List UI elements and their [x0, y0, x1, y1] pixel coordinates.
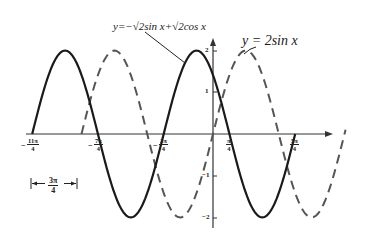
xtick-5pi-4: 5π4	[290, 137, 299, 152]
function-graph	[0, 0, 365, 238]
xtick-neg-11pi-4: 11π4	[27, 137, 39, 152]
xtick-pi-4: π4	[226, 137, 232, 152]
ytick-2: 2	[205, 46, 209, 54]
period-annotation: 3π4	[48, 176, 58, 195]
label-dashed-equation: y = 2sin x	[242, 33, 298, 49]
ytick-neg1: −1	[202, 171, 210, 179]
x-axis-arrow-icon	[325, 131, 333, 137]
ytick-1: 1	[205, 87, 209, 95]
minus-sign: −	[153, 141, 158, 150]
y-axis-arrow-icon	[210, 38, 216, 46]
xtick-neg-3pi-4: 3π4	[159, 137, 168, 152]
label-solid-equation: y=−√2sin x+√2cos x	[113, 20, 206, 32]
ytick-neg2: −2	[202, 213, 210, 221]
minus-sign: −	[21, 141, 26, 150]
xtick-neg-7pi-4: 7π4	[94, 137, 103, 152]
minus-sign: −	[88, 141, 93, 150]
leader-line-solid	[145, 32, 185, 63]
